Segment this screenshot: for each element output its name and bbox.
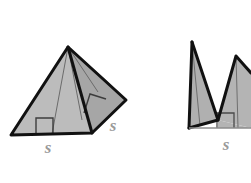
label-right-base: s bbox=[222, 135, 230, 154]
pyramid-diagram-svg: s s s bbox=[0, 0, 251, 183]
label-left-base: s bbox=[44, 138, 52, 157]
left-pyramid-figure: s s bbox=[11, 47, 126, 157]
label-left-slant: s bbox=[109, 116, 117, 135]
right-net-figure: s bbox=[189, 42, 251, 154]
geometry-figure-canvas: s s s bbox=[0, 0, 251, 183]
